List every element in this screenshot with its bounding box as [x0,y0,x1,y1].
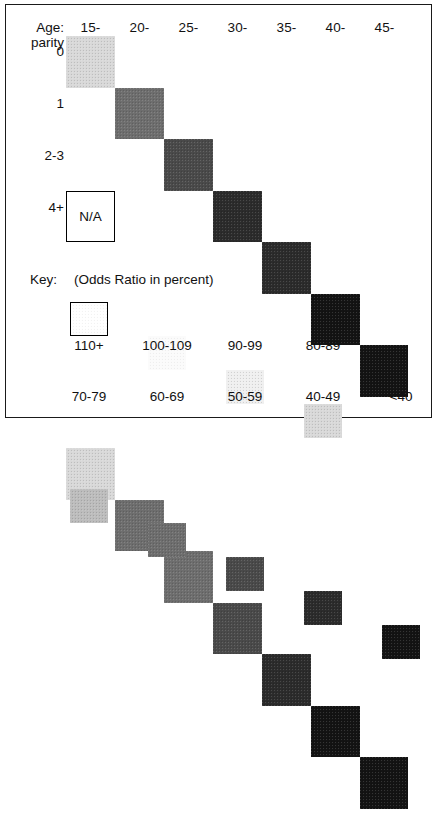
legend-label-3: 80-89 [291,338,355,353]
legend-label-6: 50-59 [213,389,277,404]
legend-label-4: 70-79 [57,389,121,404]
legend-label-8: <40 [369,389,433,404]
row-header-parity-3: 4+ [10,200,64,215]
heatmap-cell [66,36,115,88]
column-header-age-3: 30- [213,20,262,35]
legend-label-1: 100-109 [135,338,199,353]
legend-swatch-4 [70,489,108,523]
heatmap-cell-na: N/A [66,191,115,243]
heatmap-cell [311,706,360,758]
legend-swatch-6 [226,557,264,591]
legend-label-2: 90-99 [213,338,277,353]
legend-swatch-5 [148,523,186,557]
legend-swatch-7 [304,591,342,625]
heatmap-cell [262,242,311,294]
heatmap-cell [164,139,213,191]
heatmap-cell [262,654,311,706]
legend-key-caption: (Odds Ratio in percent) [74,272,214,287]
axis-label-age: Age: [14,20,64,35]
legend-caption: Key:(Odds Ratio in percent) [30,272,214,287]
legend-label-5: 60-69 [135,389,199,404]
column-header-age-6: 45- [360,20,409,35]
legend-key-label: Key: [30,272,74,287]
column-header-age-4: 35- [262,20,311,35]
heatmap-cell [164,551,213,603]
column-header-age-0: 15- [66,20,115,35]
heatmap-grid: N/A [66,36,408,242]
heatmap-cell [213,603,262,655]
legend-swatch-0 [70,302,108,336]
heatmap-cell [213,191,262,243]
legend-label-0: 110+ [57,338,121,353]
column-header-age-1: 20- [115,20,164,35]
row-header-parity-2: 2-3 [10,148,64,163]
heatmap-cell [115,88,164,140]
column-header-age-5: 40- [311,20,360,35]
legend-swatch-3 [304,404,342,438]
legend-swatch-8 [382,625,420,659]
column-header-age-2: 25- [164,20,213,35]
legend-label-7: 40-49 [291,389,355,404]
row-header-parity-1: 1 [10,96,64,111]
row-header-parity-0: 0 [10,44,64,59]
heatmap-cell [360,757,408,809]
